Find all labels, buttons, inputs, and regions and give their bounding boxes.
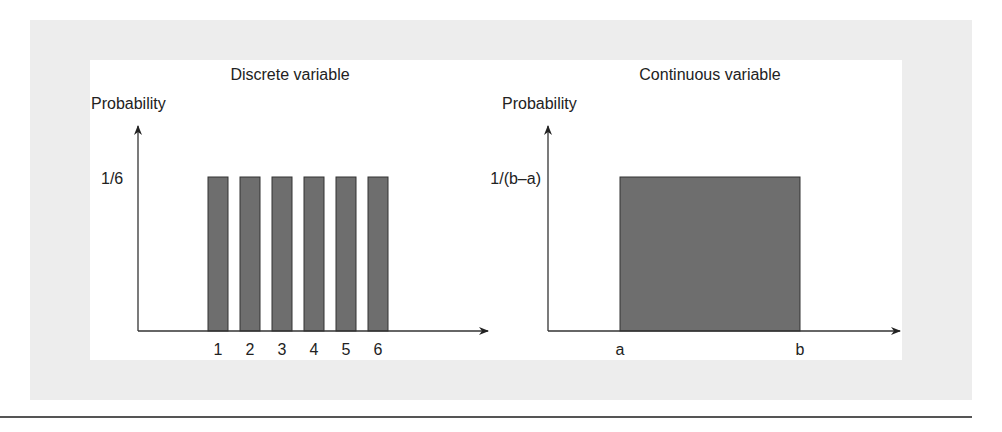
x-tick-4: 4	[310, 341, 319, 358]
x-tick-b: b	[796, 341, 805, 358]
discrete-bars	[208, 177, 388, 331]
continuous-chart-title: Continuous variable	[639, 66, 781, 83]
continuous-chart: Continuous variable Probability 1/(b–a) …	[490, 66, 900, 358]
bar-4	[304, 177, 324, 331]
x-tick-a: a	[616, 341, 625, 358]
discrete-chart-title: Discrete variable	[230, 66, 349, 83]
discrete-chart: Discrete variable Probability 1/6 1 2 3 …	[91, 66, 488, 358]
bottom-rule-divider	[0, 416, 972, 418]
bar-3	[272, 177, 292, 331]
discrete-x-tick-labels: 1 2 3 4 5 6	[214, 341, 383, 358]
charts-svg: Discrete variable Probability 1/6 1 2 3 …	[0, 0, 1002, 432]
x-tick-5: 5	[342, 341, 351, 358]
x-tick-3: 3	[278, 341, 287, 358]
continuous-y-axis-label: Probability	[502, 95, 577, 112]
uniform-density-area	[620, 177, 800, 331]
x-tick-1: 1	[214, 341, 223, 358]
bar-5	[336, 177, 356, 331]
discrete-y-axis-label: Probability	[91, 95, 166, 112]
x-tick-2: 2	[246, 341, 255, 358]
bar-6	[368, 177, 388, 331]
bar-1	[208, 177, 228, 331]
continuous-y-tick-label: 1/(b–a)	[490, 170, 541, 187]
discrete-y-tick-label: 1/6	[101, 170, 123, 187]
x-tick-6: 6	[374, 341, 383, 358]
bar-2	[240, 177, 260, 331]
